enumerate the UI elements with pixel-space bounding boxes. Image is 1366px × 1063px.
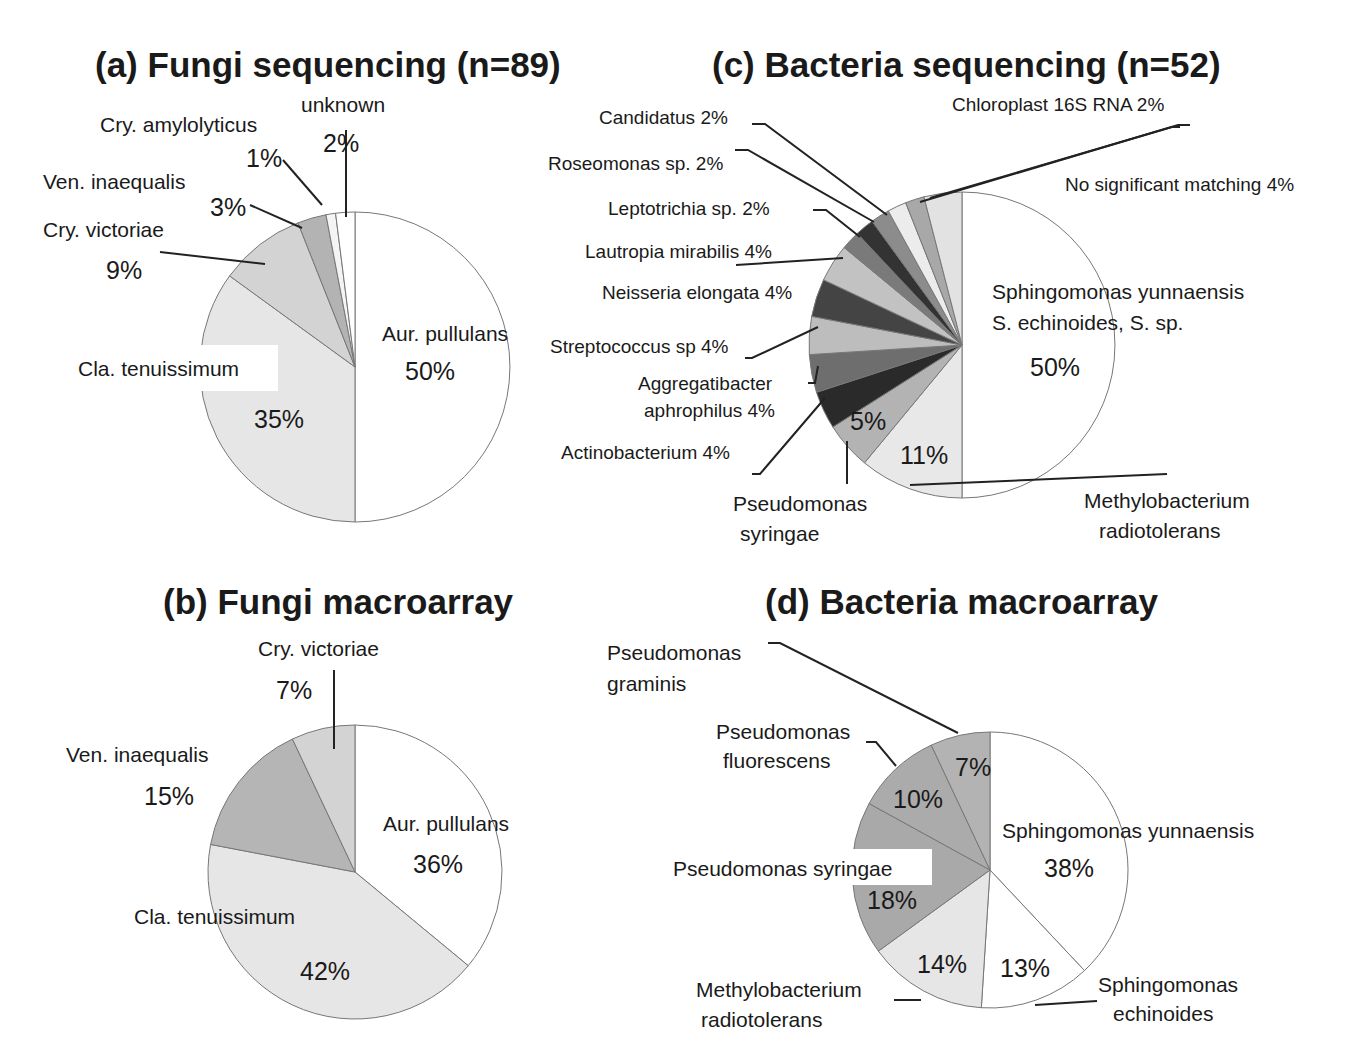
label-amylolyticus: Cry. amylolyticus xyxy=(100,113,257,136)
pct-pullulans: 36% xyxy=(413,850,463,878)
leader-candidatus xyxy=(752,124,887,215)
label-pullulans: Aur. pullulans xyxy=(382,322,508,345)
panel-c-title: (c) Bacteria sequencing (n=52) xyxy=(712,45,1221,84)
pct-unknown: 2% xyxy=(323,129,359,157)
label-inaequalis: Ven. inaequalis xyxy=(66,743,208,766)
label-pseudomonas-2: syringae xyxy=(740,522,819,545)
label-unknown: unknown xyxy=(301,93,385,116)
label-victoriae: Cry. victoriae xyxy=(258,637,379,660)
label-syringae: Pseudomonas syringae xyxy=(673,857,892,880)
label-methylobacterium-2: radiotolerans xyxy=(701,1008,822,1031)
label-leptotrichia: Leptotrichia sp. 2% xyxy=(608,198,770,219)
panel-d: (d) Bacteria macroarray Pseudomonas gram… xyxy=(607,582,1254,1031)
pct-methylobacterium: 11% xyxy=(900,441,948,469)
pct-methylobacterium: 14% xyxy=(917,950,967,978)
leader-streptococcus xyxy=(745,327,818,358)
label-roseomonas: Roseomonas sp. 2% xyxy=(548,153,723,174)
label-pullulans: Aur. pullulans xyxy=(383,812,509,835)
label-tenuissimum: Cla. tenuissimum xyxy=(134,905,295,928)
pct-fluorescens: 10% xyxy=(893,785,943,813)
label-echinoides-2: echinoides xyxy=(1113,1002,1213,1025)
pct-tenuissimum: 35% xyxy=(254,405,304,433)
figure: (a) Fungi sequencing (n=89) unknown 2% C… xyxy=(0,0,1366,1063)
label-sphingomonas-2: S. echinoides, S. sp. xyxy=(992,311,1183,334)
label-fluorescens-2: fluorescens xyxy=(723,749,830,772)
leader-echinoides xyxy=(1035,1001,1097,1005)
label-methylobacterium-1: Methylobacterium xyxy=(696,978,862,1001)
label-actinobacterium: Actinobacterium 4% xyxy=(561,442,730,463)
pct-inaequalis: 3% xyxy=(210,193,246,221)
label-fluorescens-1: Pseudomonas xyxy=(716,720,850,743)
label-victoriae: Cry. victoriae xyxy=(43,218,164,241)
pct-yunnaensis: 38% xyxy=(1044,854,1094,882)
pct-pullulans: 50% xyxy=(405,357,455,385)
label-tenuissimum: Cla. tenuissimum xyxy=(78,357,239,380)
label-chloroplast: Chloroplast 16S RNA 2% xyxy=(952,94,1164,115)
label-methylobacterium-2: radiotolerans xyxy=(1099,519,1220,542)
pct-syringae: 18% xyxy=(867,886,917,914)
panel-b: (b) Fungi macroarray Cry. victoriae 7% V… xyxy=(66,582,514,1019)
label-streptococcus: Streptococcus sp 4% xyxy=(550,336,729,357)
pct-graminis: 7% xyxy=(955,753,991,781)
label-aggregatibacter-1: Aggregatibacter xyxy=(638,373,773,394)
panel-d-title: (d) Bacteria macroarray xyxy=(765,582,1158,621)
pct-echinoides: 13% xyxy=(1000,954,1050,982)
label-pseudomonas-1: Pseudomonas xyxy=(733,492,867,515)
panel-a: (a) Fungi sequencing (n=89) unknown 2% C… xyxy=(43,45,561,522)
label-graminis-2: graminis xyxy=(607,672,686,695)
label-echinoides-1: Sphingomonas xyxy=(1098,973,1238,996)
label-yunnaensis: Sphingomonas yunnaensis xyxy=(1002,819,1254,842)
pie-c xyxy=(809,192,1115,498)
pct-victoriae: 9% xyxy=(106,256,142,284)
label-nosig: No significant matching 4% xyxy=(1065,174,1294,195)
panel-c: (c) Bacteria sequencing (n=52) Candidatu… xyxy=(548,45,1294,545)
leader-inaequalis xyxy=(250,205,302,228)
pct-amylolyticus: 1% xyxy=(246,144,282,172)
leader-fluorescens xyxy=(866,742,896,766)
pct-pseudomonas: 5% xyxy=(850,407,886,435)
label-candidatus: Candidatus 2% xyxy=(599,107,728,128)
label-sphingomonas-1: Sphingomonas yunnaensis xyxy=(992,280,1244,303)
pct-tenuissimum: 42% xyxy=(300,957,350,985)
pie-slice xyxy=(962,192,1115,498)
label-methylobacterium-1: Methylobacterium xyxy=(1084,489,1250,512)
pct-sphingomonas: 50% xyxy=(1030,353,1080,381)
label-inaequalis: Ven. inaequalis xyxy=(43,170,185,193)
pct-inaequalis: 15% xyxy=(144,782,194,810)
panel-b-title: (b) Fungi macroarray xyxy=(163,582,514,621)
pct-victoriae: 7% xyxy=(276,676,312,704)
leader-leptotrichia xyxy=(813,210,860,237)
leader-amylolyticus xyxy=(283,160,322,205)
label-neisseria: Neisseria elongata 4% xyxy=(602,282,792,303)
panel-a-title: (a) Fungi sequencing (n=89) xyxy=(95,45,561,84)
label-lautropia: Lautropia mirabilis 4% xyxy=(585,241,772,262)
label-aggregatibacter-2: aphrophilus 4% xyxy=(644,400,775,421)
label-graminis-1: Pseudomonas xyxy=(607,641,741,664)
